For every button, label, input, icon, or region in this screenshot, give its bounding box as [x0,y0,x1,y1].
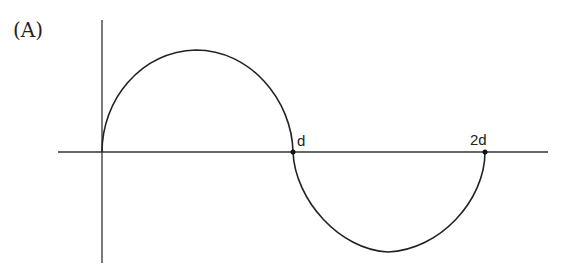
point-2d-marker [483,150,488,155]
positive-arc [102,50,293,152]
point-d-label: d [297,132,305,149]
point-d-marker [291,150,296,155]
wave-diagram: d 2d [0,0,577,270]
point-2d-label: 2d [470,131,487,148]
negative-arc [293,152,485,252]
